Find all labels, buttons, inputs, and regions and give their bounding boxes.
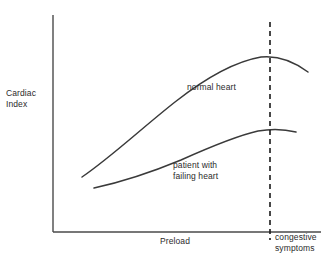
normal-heart-curve-label: normal heart [187,82,236,93]
failing-heart-curve-label: patient with failing heart [173,160,218,181]
chart-plot-area [0,0,323,259]
y-axis-label: Cardiac Index [6,88,36,109]
x-axis-label: Preload [160,236,190,247]
normal-heart-curve [82,57,308,177]
cardiac-function-curve-figure: Cardiac Index Preload normal heart patie… [0,0,323,259]
congestive-symptoms-label: congestive symptoms [275,232,317,253]
